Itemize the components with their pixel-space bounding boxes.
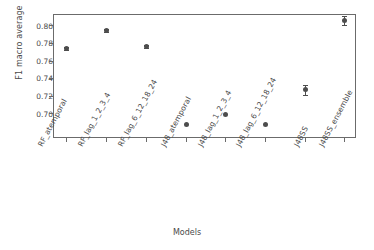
- error-bar-cap: [342, 16, 347, 17]
- x-tick-mark: [344, 138, 345, 142]
- data-point: [104, 28, 109, 33]
- y-tick-label: 0.72: [17, 92, 53, 101]
- x-tick-mark: [225, 138, 226, 142]
- x-tick-mark: [186, 138, 187, 142]
- y-tick-label: 0.74: [17, 74, 53, 83]
- x-tick-mark: [146, 138, 147, 142]
- y-tick-label: 0.70: [17, 110, 53, 119]
- data-point: [223, 112, 228, 117]
- data-point: [263, 122, 268, 127]
- error-bar-cap: [303, 95, 308, 96]
- error-bar-cap: [342, 25, 347, 26]
- y-tick-label: 0.78: [17, 39, 53, 48]
- x-tick-mark: [66, 138, 67, 142]
- data-point: [64, 46, 69, 51]
- data-point: [342, 18, 347, 23]
- data-point: [303, 87, 308, 92]
- x-tick-mark: [265, 138, 266, 142]
- data-point: [184, 122, 189, 127]
- x-tick-mark: [305, 138, 306, 142]
- y-tick-label: 0.76: [17, 57, 53, 66]
- x-axis-title: Models: [0, 228, 374, 237]
- figure-canvas: F1 macro average 0.80 0.78 0.76 0.74 0.7…: [0, 0, 374, 250]
- data-point: [144, 44, 149, 49]
- y-tick-label: 0.80: [17, 22, 53, 31]
- error-bar-cap: [303, 85, 308, 86]
- x-tick-mark: [106, 138, 107, 142]
